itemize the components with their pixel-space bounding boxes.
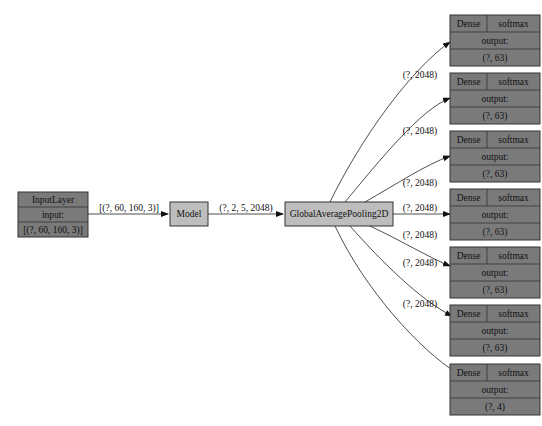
input-layer-title: InputLayer bbox=[32, 195, 75, 205]
edge-label-dense-6: (?, 2048) bbox=[403, 299, 437, 310]
dense-layer-label: Dense bbox=[457, 368, 481, 378]
input-layer-field: input: bbox=[42, 210, 64, 220]
pooling-node-title: GlobalAveragePooling2D bbox=[290, 209, 389, 219]
dense-activation-label: softmax bbox=[498, 309, 529, 319]
dense-field-label: output: bbox=[482, 268, 509, 278]
edge-label-input-model: [(?, 60, 160, 3)] bbox=[99, 203, 159, 214]
dense-node-4[interactable]: Dense softmax output: (?, 63) bbox=[450, 247, 540, 298]
model-graph: InputLayer input: [(?, 60, 160, 3)] [(?,… bbox=[0, 0, 542, 426]
input-layer-shape: [(?, 60, 160, 3)] bbox=[23, 225, 83, 236]
dense-shape-label: (?, 4) bbox=[485, 402, 505, 413]
dense-shape-label: (?, 63) bbox=[483, 285, 508, 296]
input-layer-node[interactable]: InputLayer input: [(?, 60, 160, 3)] bbox=[18, 192, 88, 237]
edge-label-dense-2: (?, 2048) bbox=[403, 178, 437, 189]
dense-activation-label: softmax bbox=[498, 368, 529, 378]
edge-pool-dense-6 bbox=[335, 226, 457, 373]
dense-activation-label: softmax bbox=[498, 19, 529, 29]
dense-layer-label: Dense bbox=[457, 251, 481, 261]
edge-label-dense-1: (?, 2048) bbox=[403, 126, 437, 137]
dense-activation-label: softmax bbox=[498, 77, 529, 87]
edge-label-dense-0: (?, 2048) bbox=[403, 70, 437, 81]
dense-field-label: output: bbox=[482, 36, 509, 46]
dense-activation-label: softmax bbox=[498, 193, 529, 203]
dense-node-2[interactable]: Dense softmax output: (?, 63) bbox=[450, 131, 540, 182]
dense-layer-label: Dense bbox=[457, 135, 481, 145]
model-node[interactable]: Model bbox=[170, 202, 208, 226]
pooling-node[interactable]: GlobalAveragePooling2D bbox=[285, 202, 393, 226]
dense-shape-label: (?, 63) bbox=[483, 343, 508, 354]
dense-node-3[interactable]: Dense softmax output: (?, 63) bbox=[450, 189, 540, 240]
dense-activation-label: softmax bbox=[498, 135, 529, 145]
dense-shape-label: (?, 63) bbox=[483, 111, 508, 122]
dense-activation-label: softmax bbox=[498, 251, 529, 261]
dense-field-label: output: bbox=[482, 94, 509, 104]
dense-shape-label: (?, 63) bbox=[483, 169, 508, 180]
dense-shape-label: (?, 63) bbox=[483, 53, 508, 64]
dense-node-5[interactable]: Dense softmax output: (?, 63) bbox=[450, 305, 540, 356]
dense-layer-label: Dense bbox=[457, 19, 481, 29]
dense-layer-label: Dense bbox=[457, 309, 481, 319]
dense-field-label: output: bbox=[482, 326, 509, 336]
edge-label-dense-4: (?, 2048) bbox=[403, 230, 437, 241]
dense-field-label: output: bbox=[482, 210, 509, 220]
dense-node-6[interactable]: Dense softmax output: (?, 4) bbox=[450, 364, 540, 415]
dense-node-0[interactable]: Dense softmax output: (?, 63) bbox=[450, 15, 540, 66]
dense-shape-label: (?, 63) bbox=[483, 227, 508, 238]
dense-field-label: output: bbox=[482, 152, 509, 162]
dense-layer-label: Dense bbox=[457, 77, 481, 87]
dense-layer-label: Dense bbox=[457, 193, 481, 203]
dense-node-1[interactable]: Dense softmax output: (?, 63) bbox=[450, 73, 540, 124]
edge-label-dense-3: (?, 2048) bbox=[403, 203, 437, 214]
model-node-title: Model bbox=[177, 209, 202, 219]
edge-label-model-pool: (?, 2, 5, 2048) bbox=[219, 203, 272, 214]
dense-field-label: output: bbox=[482, 385, 509, 395]
edge-label-dense-5: (?, 2048) bbox=[403, 258, 437, 269]
